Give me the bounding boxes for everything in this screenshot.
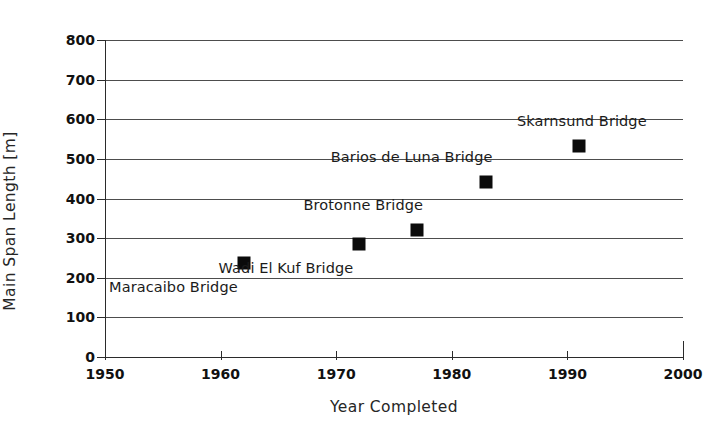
data-point-label: Barios de Luna Bridge [331, 149, 493, 165]
chart-figure: Main Span Length [m] Year Completed 0100… [0, 0, 724, 442]
y-tick-label: 500 [47, 151, 95, 167]
y-axis-title-label: Main Span Length [m] [1, 131, 33, 310]
y-tick-label: 100 [47, 309, 95, 325]
y-tick-label: 800 [47, 32, 95, 48]
gridline-horizontal [105, 357, 683, 358]
y-tick-label: 200 [47, 270, 95, 286]
x-axis-title-label: Year Completed [330, 398, 458, 416]
y-tick-label: 300 [47, 230, 95, 246]
y-tick-mark [97, 80, 106, 81]
x-tick-mark [452, 351, 453, 360]
y-tick-label: 400 [47, 191, 95, 207]
x-tick-label: 1980 [417, 366, 487, 382]
x-tick-label: 1990 [532, 366, 602, 382]
x-tick-label: 1970 [301, 366, 371, 382]
x-tick-mark [221, 351, 222, 360]
data-point-marker [411, 224, 424, 237]
x-tick-mark [683, 351, 684, 360]
gridline-horizontal [105, 238, 683, 239]
data-point-label: Wadi El Kuf Bridge [219, 260, 354, 276]
gridline-horizontal [105, 80, 683, 81]
y-tick-mark [97, 238, 106, 239]
data-point-marker [480, 175, 493, 188]
gridline-horizontal [105, 317, 683, 318]
x-tick-mark [336, 351, 337, 360]
data-point-marker [353, 238, 366, 251]
y-tick-mark [97, 159, 106, 160]
gridline-horizontal [105, 40, 683, 41]
data-point-label: Brotonne Bridge [303, 197, 423, 213]
y-tick-label: 0 [47, 349, 95, 365]
y-tick-label: 700 [47, 72, 95, 88]
y-tick-mark [97, 278, 106, 279]
x-tick-label: 2000 [648, 366, 718, 382]
y-tick-label: 600 [47, 111, 95, 127]
data-point-label: Skarnsund Bridge [517, 113, 647, 129]
data-point-label: Maracaibo Bridge [109, 279, 238, 295]
y-tick-mark [97, 317, 106, 318]
y-axis-title: Main Span Length [m] [0, 0, 34, 442]
y-tick-mark [97, 40, 106, 41]
y-tick-mark [97, 119, 106, 120]
y-tick-mark [97, 199, 106, 200]
x-tick-mark [567, 351, 568, 360]
data-point-marker [572, 140, 585, 153]
x-tick-label: 1960 [186, 366, 256, 382]
x-tick-mark [105, 351, 106, 360]
x-tick-label: 1950 [70, 366, 140, 382]
x-axis-title: Year Completed [105, 398, 683, 416]
